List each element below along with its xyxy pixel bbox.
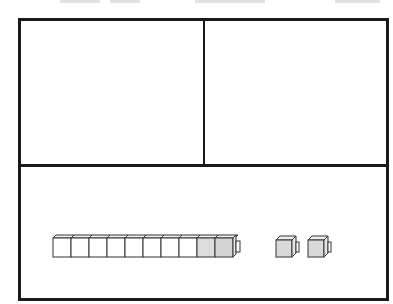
unit-cube-1 [274, 234, 304, 264]
top-left-box [21, 21, 203, 164]
cut-off-heading [0, 0, 393, 4]
unit-cube-2 [306, 234, 336, 264]
ten-rod-block [50, 234, 250, 264]
bottom-box [21, 167, 386, 298]
top-right-box [205, 21, 386, 164]
vertical-divider [203, 21, 205, 166]
